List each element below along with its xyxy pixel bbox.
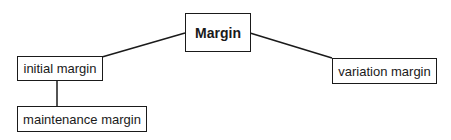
edge-margin-variation (250, 33, 332, 58)
node-label: initial margin (24, 61, 97, 76)
node-label: maintenance margin (23, 112, 141, 127)
node-label: Margin (195, 25, 241, 41)
node-maintenance-margin: maintenance margin (17, 106, 147, 132)
node-variation-margin: variation margin (332, 58, 437, 84)
node-label: variation margin (338, 64, 431, 79)
edge-margin-initial (102, 33, 185, 57)
node-margin: Margin (185, 13, 251, 52)
node-initial-margin: initial margin (17, 56, 103, 81)
